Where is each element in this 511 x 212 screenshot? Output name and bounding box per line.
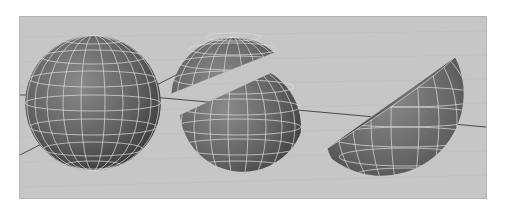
sphere-full xyxy=(25,34,161,171)
3d-viewport[interactable] xyxy=(19,16,487,199)
sphere-half-bowl xyxy=(323,40,486,198)
viewport-scene xyxy=(20,17,486,198)
